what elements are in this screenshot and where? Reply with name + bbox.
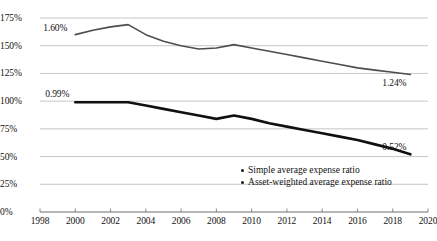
y-axis-tick-label-wrap: 50% — [0, 157, 36, 167]
y-axis-tick-label: 25% — [0, 179, 36, 189]
legend-marker-icon — [241, 181, 244, 184]
legend-item-weighted: Asset-weighted average expense ratio — [241, 177, 392, 189]
y-axis-tick-label: 75% — [0, 124, 36, 134]
x-axis-tickmarks — [40, 209, 428, 213]
legend-item-simple: Simple average expense ratio — [241, 165, 392, 177]
weighted-start-label: 0.99% — [45, 89, 69, 99]
x-axis-tick-label: 2016 — [348, 216, 367, 226]
x-axis-tick-label: 2020 — [419, 216, 437, 226]
simple-start-label: 1.60% — [43, 23, 67, 33]
x-axis-tick-label: 1998 — [31, 216, 50, 226]
x-axis-tick-label: 2004 — [137, 216, 156, 226]
legend-marker-icon — [241, 169, 244, 172]
y-axis-tick-label-wrap: 175% — [0, 18, 36, 28]
y-axis-tick-label: 125% — [0, 68, 36, 78]
series-line-simple-average — [75, 25, 410, 75]
y-axis-tick-label-wrap: 25% — [0, 184, 36, 194]
x-axis-tick-label: 2000 — [66, 216, 85, 226]
simple-end-label: 1.24% — [382, 78, 406, 88]
x-axis-tick-label: 2018 — [383, 216, 402, 226]
y-axis-tick-label: 50% — [0, 152, 36, 162]
y-axis-tick-label-wrap: 75% — [0, 129, 36, 139]
y-axis-tick-label-wrap: 100% — [0, 101, 36, 111]
x-axis-tick-label: 2002 — [101, 216, 120, 226]
x-axis-tick-label: 2014 — [313, 216, 332, 226]
y-axis-tick-label-wrap: 150% — [0, 46, 36, 56]
chart-legend: Simple average expense ratio Asset-weigh… — [241, 165, 392, 188]
x-axis-tick-label: 2006 — [172, 216, 191, 226]
x-axis-tick-label: 2010 — [242, 216, 261, 226]
weighted-end-label: 0.52% — [382, 142, 406, 152]
y-axis-tick-label: 175% — [0, 13, 36, 23]
series-line-asset-weighted — [75, 102, 410, 154]
x-axis-tick-label: 2008 — [207, 216, 226, 226]
data-series-layer — [75, 25, 410, 155]
y-axis-tick-label: 100% — [0, 96, 36, 106]
legend-label-weighted: Asset-weighted average expense ratio — [248, 177, 392, 189]
x-axis-tick-label: 2012 — [278, 216, 297, 226]
legend-label-simple: Simple average expense ratio — [248, 165, 360, 177]
y-axis-tick-label: 150% — [0, 41, 36, 51]
y-axis-tick-label-wrap: 125% — [0, 73, 36, 83]
